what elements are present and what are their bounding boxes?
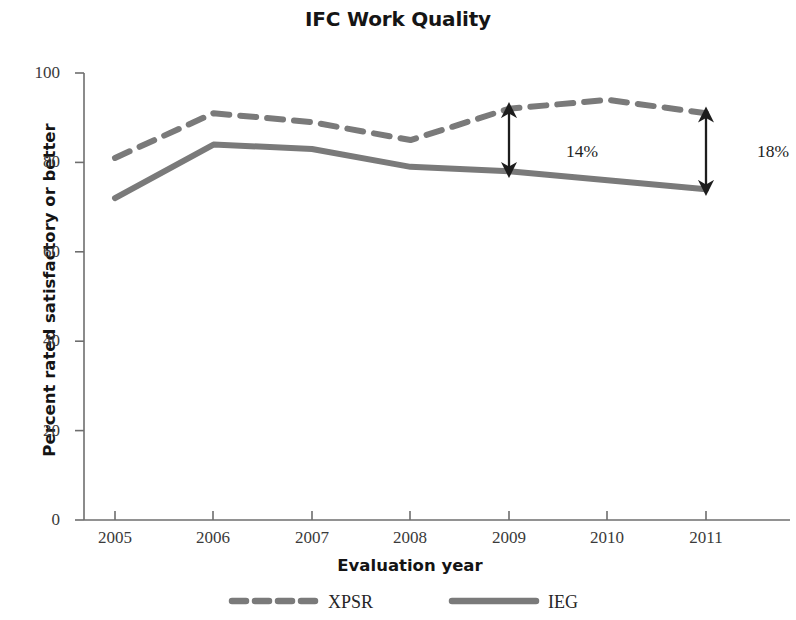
- x-tick-marks: [115, 511, 706, 520]
- chart-figure: IFC Work Quality Percent rated satisfact…: [0, 0, 796, 620]
- plot-area: [0, 0, 796, 620]
- y-tick-marks: [75, 73, 84, 520]
- series-line-ieg: [115, 145, 706, 199]
